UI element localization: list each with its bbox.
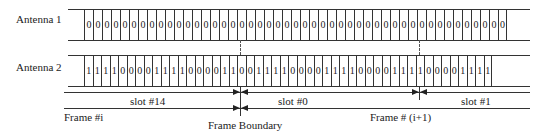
bit-cell: 1 xyxy=(271,55,280,86)
bit-cell: 0 xyxy=(435,9,444,40)
bit-cell: 0 xyxy=(246,55,255,86)
bit-cell: 0 xyxy=(441,55,450,86)
bit-cell: 0 xyxy=(237,55,246,86)
bit-cell: 1 xyxy=(220,55,229,86)
bit-cell: 0 xyxy=(138,9,147,40)
frame-i-label: Frame #i xyxy=(64,111,103,123)
bit-cell: 0 xyxy=(300,9,309,40)
bit-cell: 0 xyxy=(201,9,210,40)
bit-cell: 0 xyxy=(174,9,183,40)
arrow-right-icon xyxy=(233,105,240,111)
antenna-1-bottom-line xyxy=(68,40,530,41)
bit-cell: 1 xyxy=(484,55,493,86)
bit-cell: 0 xyxy=(381,9,390,40)
slot-1-label: slot #1 xyxy=(461,95,491,107)
bit-cell: 0 xyxy=(195,55,204,86)
bit-cell: 0 xyxy=(314,55,323,86)
arrow-left-icon xyxy=(241,89,248,95)
bit-cell: 0 xyxy=(408,9,417,40)
arrow-right-icon xyxy=(233,89,240,95)
bit-cell: 0 xyxy=(363,9,372,40)
bit-cell: 0 xyxy=(444,9,453,40)
arrow-left-icon xyxy=(420,89,427,95)
bit-cell: 1 xyxy=(475,55,484,86)
bit-cell: 1 xyxy=(110,55,119,86)
bit-cell: 0 xyxy=(382,55,391,86)
bit-cell: 0 xyxy=(336,9,345,40)
bit-cell: 0 xyxy=(118,55,127,86)
bit-cell: 0 xyxy=(219,9,228,40)
bit-cell: 0 xyxy=(305,55,314,86)
bit-cell: 1 xyxy=(331,55,340,86)
bit-cell: 0 xyxy=(345,9,354,40)
bit-cell: 0 xyxy=(498,9,507,40)
bit-cell: 0 xyxy=(424,55,433,86)
bit-cell: 0 xyxy=(120,9,129,40)
bit-cell: 0 xyxy=(129,9,138,40)
bit-cell: 0 xyxy=(237,9,246,40)
frame-boundary-dash xyxy=(240,40,241,55)
bit-cell: 1 xyxy=(348,55,357,86)
bit-cell: 1 xyxy=(229,55,238,86)
bit-cell: 0 xyxy=(327,9,336,40)
frame-boundary-label: Frame Boundary xyxy=(208,119,282,131)
bit-cell: 0 xyxy=(399,9,408,40)
bit-cell: 0 xyxy=(212,55,221,86)
arrow-left-icon xyxy=(241,105,248,111)
frame-dimension-line xyxy=(64,108,530,109)
bit-cell: 1 xyxy=(161,55,170,86)
bit-cell: 1 xyxy=(322,55,331,86)
bit-cell: 0 xyxy=(462,9,471,40)
bit-cell: 0 xyxy=(273,9,282,40)
bit-cell: 1 xyxy=(101,55,110,86)
slot-0-label: slot #0 xyxy=(278,95,308,107)
bit-cell: 0 xyxy=(93,9,102,40)
bit-cell: 0 xyxy=(356,55,365,86)
bit-cell: 1 xyxy=(152,55,161,86)
slot-dimension-line xyxy=(64,92,530,93)
bit-cell: 0 xyxy=(297,55,306,86)
bit-cell: 0 xyxy=(372,9,381,40)
bit-cell: 0 xyxy=(291,9,300,40)
bit-cell: 0 xyxy=(453,9,462,40)
bit-cell: 0 xyxy=(365,55,374,86)
antenna-1-bit-row: 0000000000000000000000000000000000000000… xyxy=(84,9,507,40)
antenna-2-bit-row: 1111000011110000110011110000111100001111… xyxy=(84,55,492,86)
bit-cell: 0 xyxy=(210,9,219,40)
antenna-2-label: Antenna 2 xyxy=(16,61,62,73)
bit-cell: 0 xyxy=(192,9,201,40)
bit-cell: 1 xyxy=(93,55,102,86)
slot-14-label: slot #14 xyxy=(130,95,165,107)
bit-cell: 0 xyxy=(433,55,442,86)
bit-cell: 0 xyxy=(111,9,120,40)
bit-cell: 0 xyxy=(288,55,297,86)
bit-cell: 0 xyxy=(426,9,435,40)
bit-cell: 0 xyxy=(144,55,153,86)
arrow-right-icon xyxy=(412,89,419,95)
bit-cell: 1 xyxy=(407,55,416,86)
bit-cell: 0 xyxy=(318,9,327,40)
bit-cell: 0 xyxy=(309,9,318,40)
bit-cell: 1 xyxy=(84,55,93,86)
bit-cell: 0 xyxy=(165,9,174,40)
frame-i-plus-1-label: Frame # (i+1) xyxy=(370,111,431,123)
bit-cell: 1 xyxy=(416,55,425,86)
bit-cell: 0 xyxy=(135,55,144,86)
bit-cell: 0 xyxy=(246,9,255,40)
bit-cell: 0 xyxy=(471,9,480,40)
bit-cell: 1 xyxy=(467,55,476,86)
bit-cell: 0 xyxy=(203,55,212,86)
bit-cell: 0 xyxy=(450,55,459,86)
bit-cell: 0 xyxy=(147,9,156,40)
bit-cell: 0 xyxy=(489,9,498,40)
bit-cell: 1 xyxy=(263,55,272,86)
bit-cell: 0 xyxy=(417,9,426,40)
bit-cell: 0 xyxy=(264,9,273,40)
bit-cell: 0 xyxy=(282,9,291,40)
bit-cell: 0 xyxy=(186,55,195,86)
bit-cell: 0 xyxy=(390,9,399,40)
bit-cell: 1 xyxy=(169,55,178,86)
bit-cell: 0 xyxy=(228,9,237,40)
bit-cell: 0 xyxy=(255,9,264,40)
bit-cell: 1 xyxy=(339,55,348,86)
